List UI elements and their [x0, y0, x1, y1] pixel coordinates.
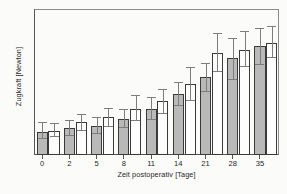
error-bar — [76, 114, 87, 131]
error-bar-cap-top — [228, 38, 237, 39]
x-tick-label: 8 — [111, 159, 137, 168]
error-bar-cap-top — [147, 97, 156, 98]
error-bar-cap-top — [267, 26, 276, 27]
error-bar-cap-top — [174, 82, 183, 83]
error-bar-cap-bottom — [201, 91, 210, 92]
x-axis-title: Zeit postoperativ [Tage] — [34, 170, 279, 179]
error-bar-stem — [272, 26, 273, 58]
error-bar-stem — [69, 120, 70, 136]
error-bar-cap-top — [65, 120, 74, 121]
x-tick-label: 2 — [56, 159, 82, 168]
error-bar-cap-bottom — [77, 130, 86, 131]
error-bar — [103, 108, 114, 127]
x-tick-label: 35 — [247, 159, 273, 168]
error-bar-stem — [206, 63, 207, 92]
x-tick-mark — [205, 155, 206, 159]
error-bar-cap-top — [201, 63, 210, 64]
x-tick-label: 0 — [29, 159, 55, 168]
error-bar-stem — [260, 28, 261, 65]
error-bar-cap-bottom — [213, 71, 222, 72]
error-bar-cap-bottom — [147, 119, 156, 120]
error-bar-cap-top — [240, 31, 249, 32]
error-bar-cap-bottom — [104, 126, 113, 127]
x-tick-mark — [259, 155, 260, 159]
x-tick-mark — [123, 155, 124, 159]
error-bar-stem — [124, 109, 125, 128]
error-bar-cap-top — [38, 122, 47, 123]
error-bar-stem — [108, 108, 109, 127]
x-tick-label: 21 — [193, 159, 219, 168]
error-bar-cap-bottom — [255, 64, 264, 65]
x-tick-label: 11 — [138, 159, 164, 168]
error-bar-cap-top — [77, 114, 86, 115]
error-bar-stem — [217, 33, 218, 72]
x-tick-label: 28 — [220, 159, 246, 168]
error-bar-stem — [136, 95, 137, 121]
error-bar-cap-bottom — [186, 100, 195, 101]
error-bar-cap-top — [104, 108, 113, 109]
error-bar — [146, 97, 157, 120]
error-bar — [227, 38, 238, 79]
error-bar — [200, 63, 211, 92]
x-tick-mark — [232, 155, 233, 159]
error-bar-cap-bottom — [131, 120, 140, 121]
error-bar-cap-top — [119, 109, 128, 110]
error-bar-cap-bottom — [267, 57, 276, 58]
error-bar — [37, 122, 48, 139]
error-bar-stem — [178, 82, 179, 106]
error-bar-stem — [190, 67, 191, 101]
error-bar — [239, 31, 250, 68]
error-bar-cap-top — [50, 123, 59, 124]
error-bar — [173, 82, 184, 106]
error-bar — [91, 117, 102, 134]
error-bar-cap-bottom — [174, 105, 183, 106]
error-bar-stem — [97, 117, 98, 134]
error-bar — [130, 95, 141, 121]
error-bar-stem — [42, 122, 43, 139]
error-bar — [185, 67, 196, 101]
error-bar-cap-top — [213, 33, 222, 34]
error-bar-cap-top — [186, 67, 195, 68]
bar — [266, 43, 277, 155]
error-bar-cap-top — [255, 28, 264, 29]
x-tick-mark — [151, 155, 152, 159]
error-bar-cap-bottom — [228, 79, 237, 80]
error-bar-cap-top — [92, 117, 101, 118]
error-bar-cap-bottom — [158, 113, 167, 114]
x-tick-label: 5 — [84, 159, 110, 168]
error-bar — [64, 120, 75, 136]
error-bar-stem — [54, 123, 55, 136]
error-bar-cap-bottom — [92, 133, 101, 134]
error-bar-stem — [81, 114, 82, 131]
error-bar — [48, 123, 59, 136]
x-tick-mark — [69, 155, 70, 159]
error-bar-stem — [233, 38, 234, 79]
error-bar-cap-top — [131, 95, 140, 96]
x-tick-label: 14 — [165, 159, 191, 168]
error-bar-cap-bottom — [65, 135, 74, 136]
error-bar-stem — [163, 89, 164, 113]
error-bar — [157, 89, 168, 113]
y-axis-title: Zugkraft [Newton] — [14, 17, 23, 137]
error-bar-cap-top — [158, 89, 167, 90]
error-bar-cap-bottom — [50, 136, 59, 137]
error-bar — [212, 33, 223, 72]
x-tick-mark — [178, 155, 179, 159]
x-tick-mark — [96, 155, 97, 159]
error-bar-stem — [151, 97, 152, 120]
x-tick-mark — [42, 155, 43, 159]
chart-container: Zugkraft [Newton] 0102030405060 02581114… — [0, 0, 287, 194]
error-bar-cap-bottom — [119, 127, 128, 128]
error-bar — [118, 109, 129, 128]
error-bar — [254, 28, 265, 65]
error-bar-cap-bottom — [38, 138, 47, 139]
error-bar-cap-bottom — [240, 66, 249, 67]
error-bar-stem — [245, 31, 246, 68]
error-bar — [266, 26, 277, 58]
